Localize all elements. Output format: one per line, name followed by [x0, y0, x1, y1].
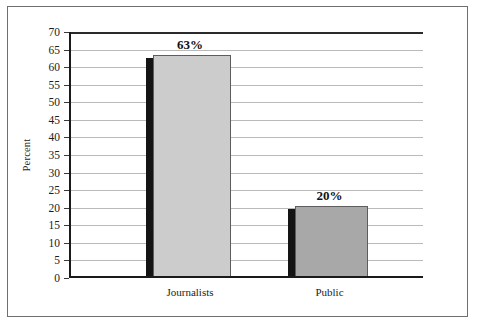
y-axis-tick-mark [64, 50, 69, 51]
y-axis-tick-mark [64, 120, 69, 121]
y-axis-tick-label: 0 [54, 272, 60, 284]
y-axis-tick-mark [64, 32, 69, 33]
bar-shadow [146, 58, 153, 276]
y-axis-tick-label: 45 [49, 114, 61, 126]
y-axis-tick-label: 30 [49, 167, 61, 179]
gridline [71, 32, 423, 34]
y-axis-tick-mark [64, 173, 69, 174]
gridline [71, 67, 423, 68]
plot-area [69, 32, 423, 278]
y-axis-tick-label: 40 [49, 131, 61, 143]
gridline [71, 190, 423, 191]
gridline [71, 173, 423, 174]
gridline [71, 50, 423, 51]
y-axis-tick-label: 60 [49, 61, 61, 73]
y-axis-tick-label: 70 [49, 26, 61, 38]
plot-wrap: 0510152025303540455055606570 Journalists… [69, 32, 423, 278]
chart-frame: Percent 0510152025303540455055606570 Jou… [7, 6, 468, 317]
gridline [71, 243, 423, 244]
bar-value-label-journalists: 63% [177, 37, 203, 53]
y-axis-tick-label: 65 [49, 44, 61, 56]
y-axis-tick-mark [64, 243, 69, 244]
y-axis-tick-mark [64, 155, 69, 156]
gridline [71, 260, 423, 261]
y-axis-tick-mark [64, 102, 69, 103]
y-axis-tick-label: 20 [49, 202, 61, 214]
y-axis-tick-label: 25 [49, 184, 61, 196]
y-axis-tick-mark [64, 85, 69, 86]
gridline [71, 208, 423, 209]
x-axis-label-journalists: Journalists [166, 286, 213, 298]
y-axis-tick-mark [64, 260, 69, 261]
y-axis-tick-label: 50 [49, 96, 61, 108]
bar-journalists[interactable] [153, 55, 231, 276]
y-axis-tick-mark [64, 190, 69, 191]
y-axis-title: Percent [21, 139, 32, 172]
gridline [71, 120, 423, 121]
y-axis-tick-label: 35 [49, 149, 61, 161]
x-axis-label-public: Public [315, 286, 343, 298]
gridline [71, 137, 423, 138]
bar-shadow [288, 209, 295, 276]
gridline [71, 85, 423, 86]
y-axis-tick-label: 10 [49, 237, 61, 249]
y-axis-tick-mark [64, 137, 69, 138]
y-axis-tick-label: 55 [49, 79, 61, 91]
bar-public[interactable] [295, 206, 368, 276]
gridline [71, 225, 423, 226]
y-axis-tick-label: 15 [49, 219, 61, 231]
y-axis-tick-mark [64, 67, 69, 68]
gridline [71, 155, 423, 156]
bar-value-label-public: 20% [317, 188, 343, 204]
y-axis-tick-mark [64, 225, 69, 226]
y-axis-tick-label: 5 [54, 254, 60, 266]
gridline [71, 102, 423, 103]
y-axis-tick-mark [64, 278, 69, 279]
y-axis-tick-mark [64, 208, 69, 209]
